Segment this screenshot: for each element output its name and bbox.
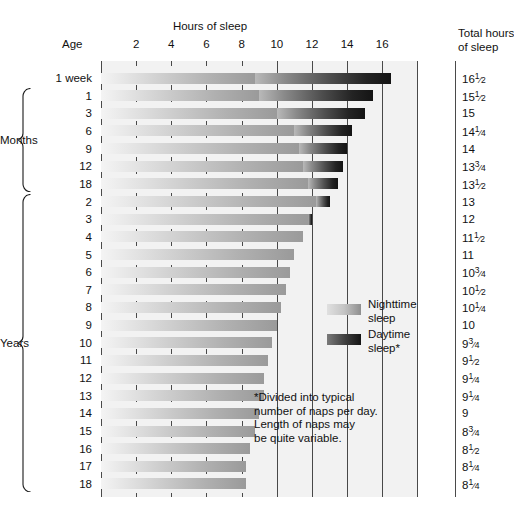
total-hours-value-12: 101⁄2 [462, 283, 486, 297]
row-label-15: 15 [40, 425, 92, 437]
row-label-14: 14 [40, 407, 92, 419]
total-header-line-2: of sleep [458, 41, 514, 55]
x-axis-tick-label-12: 12 [306, 38, 319, 50]
row-label-2: 2 [40, 196, 92, 208]
x-axis-tick-label-16: 16 [376, 38, 389, 50]
total-hours-value-20: 83⁄4 [462, 424, 479, 438]
row-label-11: 11 [40, 354, 92, 366]
row-label-7: 7 [40, 284, 92, 296]
group-label-years: Years [0, 337, 15, 349]
legend-night-line-1: Nighttime [368, 298, 417, 312]
bar-nighttime-14 [101, 320, 277, 331]
x-axis-tick-label-8: 8 [238, 38, 244, 50]
gridline-16 [382, 61, 383, 497]
bar-nighttime-10 [101, 249, 294, 260]
daytime-swatch-icon [327, 334, 361, 345]
bar-daytime-6 [308, 178, 339, 189]
bar-nighttime-1 [101, 90, 259, 101]
bar-daytime-3 [294, 125, 351, 136]
totals-separator-line [455, 61, 456, 497]
bar-nighttime-22 [101, 461, 246, 472]
chart-title: Hours of sleep [0, 20, 420, 32]
bar-nighttime-0 [101, 73, 255, 84]
bar-nighttime-5 [101, 161, 303, 172]
bar-nighttime-4 [101, 143, 299, 154]
legend-day-line-1: Daytime [368, 328, 410, 342]
bar-nighttime-23 [101, 478, 246, 489]
bar-nighttime-19 [101, 408, 259, 419]
bar-daytime-0 [255, 73, 391, 84]
total-hours-value-0: 161⁄2 [462, 71, 486, 85]
footnote-line-1: *Divided into typical [254, 391, 378, 405]
total-hours-value-18: 91⁄4 [462, 389, 479, 403]
bar-nighttime-12 [101, 284, 286, 295]
legend-day-line-2: sleep* [368, 342, 410, 356]
x-axis-tick-label-6: 6 [203, 38, 209, 50]
bar-nighttime-11 [101, 267, 290, 278]
bar-nighttime-15 [101, 337, 272, 348]
bar-nighttime-20 [101, 426, 255, 437]
total-hours-value-10: 11 [462, 249, 474, 261]
bar-nighttime-9 [101, 231, 303, 242]
total-hours-value-6: 131⁄2 [462, 177, 486, 191]
legend-night-line-2: sleep [368, 312, 417, 326]
total-hours-value-16: 91⁄2 [462, 353, 479, 367]
plot-right-border [417, 61, 418, 497]
row-label-3: 3 [40, 213, 92, 225]
bar-daytime-2 [277, 108, 365, 119]
row-label-12: 12 [40, 372, 92, 384]
total-hours-value-19: 9 [462, 407, 468, 419]
total-hours-value-14: 10 [462, 319, 475, 331]
row-label-13: 13 [40, 390, 92, 402]
row-label-17: 17 [40, 460, 92, 472]
legend-label-daytime: Daytime sleep* [368, 328, 410, 355]
footnote-line-4: be quite variable. [254, 432, 378, 446]
bar-nighttime-13 [101, 302, 281, 313]
total-hours-value-15: 93⁄4 [462, 336, 479, 350]
total-hours-value-1: 151⁄2 [462, 89, 486, 103]
bar-nighttime-18 [101, 390, 264, 401]
total-hours-value-22: 81⁄4 [462, 459, 479, 473]
footnote-line-2: number of naps per day. [254, 405, 378, 419]
bar-nighttime-21 [101, 443, 250, 454]
x-axis-tick-label-4: 4 [168, 38, 174, 50]
total-hours-value-7: 13 [462, 196, 475, 208]
bar-nighttime-8 [101, 214, 308, 225]
total-header-line-1: Total hours [458, 27, 514, 41]
total-hours-value-4: 14 [462, 143, 475, 155]
total-hours-value-21: 81⁄2 [462, 442, 479, 456]
bar-daytime-4 [299, 143, 347, 154]
row-label-5: 5 [40, 249, 92, 261]
row-label-9: 9 [40, 319, 92, 331]
total-hours-value-8: 12 [462, 213, 475, 225]
bar-daytime-1 [259, 90, 373, 101]
row-label-1: 1 [40, 90, 92, 102]
bar-nighttime-16 [101, 355, 268, 366]
footnote: *Divided into typical number of naps per… [254, 391, 378, 445]
bar-daytime-8 [308, 214, 312, 225]
row-label-9: 9 [40, 143, 92, 155]
row-label-1-week: 1 week [40, 72, 92, 84]
total-hours-value-5: 133⁄4 [462, 159, 486, 173]
bar-nighttime-7 [101, 196, 316, 207]
footnote-line-3: Length of naps may [254, 418, 378, 432]
row-label-10: 10 [40, 337, 92, 349]
total-hours-value-9: 111⁄2 [462, 230, 485, 244]
x-axis-tick-label-14: 14 [341, 38, 354, 50]
bar-daytime-5 [303, 161, 343, 172]
row-label-16: 16 [40, 443, 92, 455]
total-hours-column-header: Total hours of sleep [458, 27, 514, 54]
legend-label-nighttime: Nighttime sleep [368, 298, 417, 325]
row-label-6: 6 [40, 266, 92, 278]
total-hours-value-17: 91⁄4 [462, 371, 479, 385]
row-label-18: 18 [40, 178, 92, 190]
bar-nighttime-2 [101, 108, 277, 119]
total-hours-value-11: 103⁄4 [462, 265, 486, 279]
row-label-4: 4 [40, 231, 92, 243]
x-axis-tick-label-2: 2 [133, 38, 139, 50]
total-hours-value-13: 101⁄4 [462, 300, 486, 314]
bar-daytime-7 [316, 196, 329, 207]
bar-nighttime-17 [101, 373, 264, 384]
row-label-6: 6 [40, 125, 92, 137]
